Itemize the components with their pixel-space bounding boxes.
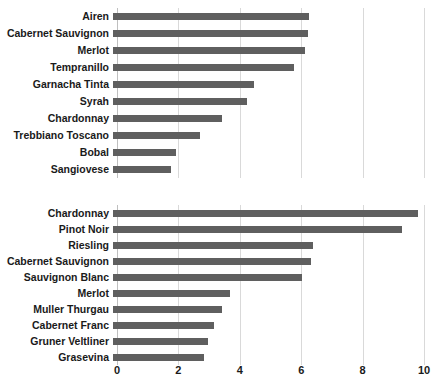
bar-row: Cabernet Sauvignon [0, 253, 444, 269]
bar-row: Cabernet Franc [0, 317, 444, 333]
x-tick-label: 6 [298, 365, 304, 376]
category-label: Muller Thurgau [0, 304, 113, 315]
bar-track [113, 285, 420, 301]
category-label: Merlot [0, 288, 113, 299]
bar-track [113, 301, 420, 317]
category-label: Garnacha Tinta [0, 79, 113, 90]
category-label: Grasevina [0, 352, 113, 363]
bar-row: Cabernet Sauvignon [0, 25, 444, 42]
bar [113, 210, 418, 217]
category-label: Cabernet Sauvignon [0, 256, 113, 267]
x-tick-label: 8 [360, 365, 366, 376]
bar-track [113, 110, 420, 127]
bottom-chart-panel: ChardonnayPinot NoirRieslingCabernet Sau… [0, 205, 444, 365]
bar-track [113, 8, 420, 25]
bar [113, 322, 214, 329]
bar-row: Merlot [0, 285, 444, 301]
category-label: Riesling [0, 240, 113, 251]
bar-track [113, 317, 420, 333]
category-label: Tempranillo [0, 62, 113, 73]
bar [113, 64, 294, 71]
category-label: Cabernet Franc [0, 320, 113, 331]
bar-track [113, 349, 420, 365]
x-tick-label: 2 [175, 365, 181, 376]
bar [113, 98, 247, 105]
bar-row: Chardonnay [0, 110, 444, 127]
bar [113, 354, 204, 361]
bar [113, 132, 200, 139]
bar [113, 290, 230, 297]
bar-track [113, 76, 420, 93]
bar-track [113, 221, 420, 237]
bar-row: Riesling [0, 237, 444, 253]
bar-track [113, 42, 420, 59]
bar-row: Muller Thurgau [0, 301, 444, 317]
bar-track [113, 205, 420, 221]
bar-row: Airen [0, 8, 444, 25]
bar-track [113, 237, 420, 253]
bar-row: Garnacha Tinta [0, 76, 444, 93]
bar-row: Merlot [0, 42, 444, 59]
bar-row: Bobal [0, 144, 444, 161]
bar-row: Gruner Veltliner [0, 333, 444, 349]
top-chart-rows: AirenCabernet SauvignonMerlotTempranillo… [0, 8, 444, 178]
bar-track [113, 161, 420, 178]
bar-track [113, 333, 420, 349]
bar [113, 81, 254, 88]
bar-track [113, 253, 420, 269]
bar [113, 47, 305, 54]
category-label: Trebbiano Toscano [0, 130, 113, 141]
bar-row: Chardonnay [0, 205, 444, 221]
x-tick-label: 0 [114, 365, 120, 376]
bar [113, 166, 171, 173]
x-axis-tick-labels: 0246810 [117, 365, 424, 385]
bar [113, 258, 311, 265]
wine-grape-varieties-bar-chart: AirenCabernet SauvignonMerlotTempranillo… [0, 0, 444, 392]
category-label: Bobal [0, 147, 113, 158]
bar [113, 242, 313, 249]
bottom-chart-rows: ChardonnayPinot NoirRieslingCabernet Sau… [0, 205, 444, 365]
bar [113, 115, 222, 122]
bar [113, 274, 302, 281]
category-label: Sangiovese [0, 164, 113, 175]
category-label: Sauvignon Blanc [0, 272, 113, 283]
category-label: Cabernet Sauvignon [0, 28, 113, 39]
bar [113, 13, 309, 20]
category-label: Chardonnay [0, 208, 113, 219]
x-tick-label: 10 [418, 365, 430, 376]
bar-row: Trebbiano Toscano [0, 127, 444, 144]
bar-row: Syrah [0, 93, 444, 110]
bar-track [113, 25, 420, 42]
bar-track [113, 144, 420, 161]
bar [113, 306, 222, 313]
category-label: Syrah [0, 96, 113, 107]
category-label: Gruner Veltliner [0, 336, 113, 347]
bar-track [113, 269, 420, 285]
bar-track [113, 59, 420, 76]
category-label: Pinot Noir [0, 224, 113, 235]
bar-row: Sangiovese [0, 161, 444, 178]
bar-row: Tempranillo [0, 59, 444, 76]
category-label: Chardonnay [0, 113, 113, 124]
bar [113, 30, 308, 37]
bar-row: Grasevina [0, 349, 444, 365]
category-label: Merlot [0, 45, 113, 56]
bar-track [113, 127, 420, 144]
top-chart-panel: AirenCabernet SauvignonMerlotTempranillo… [0, 8, 444, 178]
bar-row: Pinot Noir [0, 221, 444, 237]
category-label: Airen [0, 11, 113, 22]
bar [113, 149, 176, 156]
bar-track [113, 93, 420, 110]
bar [113, 338, 208, 345]
bar [113, 226, 402, 233]
bar-row: Sauvignon Blanc [0, 269, 444, 285]
x-tick-label: 4 [237, 365, 243, 376]
